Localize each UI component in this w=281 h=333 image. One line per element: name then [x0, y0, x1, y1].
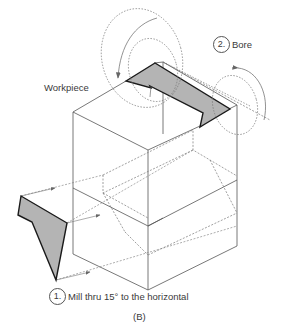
operation-text: Mill thru 15° to the horizontal	[68, 291, 189, 302]
bore-rotation-indicator	[90, 0, 264, 140]
figure-caption: (B)	[133, 311, 146, 322]
operation-bore-label: 2.Bore	[213, 36, 252, 53]
workpiece-label-text: Workpiece	[44, 82, 89, 93]
machining-diagram: Workpiece 2.Bore 1.Mill thru 15° to the …	[0, 0, 281, 333]
step-number-badge: 2.	[213, 36, 230, 53]
step-number-badge: 1.	[49, 288, 66, 305]
mill-cutter-shaded	[18, 196, 67, 280]
rotation-arrow-right-icon	[238, 68, 266, 120]
workpiece-label: Workpiece	[44, 82, 89, 93]
operation-mill-label: 1.Mill thru 15° to the horizontal	[49, 288, 189, 305]
operation-text: Bore	[232, 39, 252, 50]
bore-chamfer-shaded	[126, 63, 230, 127]
